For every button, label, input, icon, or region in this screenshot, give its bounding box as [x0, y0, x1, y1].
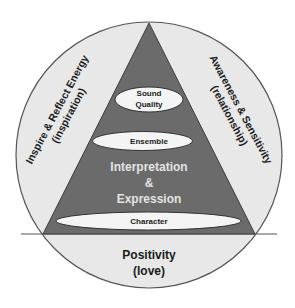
label-positivity: Positivity: [122, 248, 176, 262]
label-ensemble: Ensemble: [130, 137, 168, 146]
label-character: Character: [130, 217, 167, 226]
diagram-stage: Sound Quality Ensemble Interpretation & …: [0, 0, 295, 308]
label-ampersand: &: [145, 176, 154, 190]
pyramid-circle-diagram: Sound Quality Ensemble Interpretation & …: [0, 0, 295, 308]
label-expression: Expression: [117, 192, 182, 206]
label-quality: Quality: [135, 100, 163, 109]
label-sound: Sound: [137, 89, 162, 98]
label-interpretation: Interpretation: [110, 160, 187, 174]
label-love: (love): [133, 264, 165, 278]
